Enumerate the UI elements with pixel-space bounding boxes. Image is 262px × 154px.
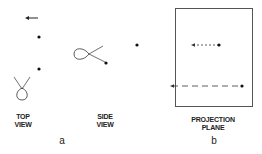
- side-view-label: SIDE VIEW: [90, 113, 120, 129]
- panel-b-letter: b: [208, 135, 220, 146]
- side-view-eye-icon: [74, 46, 105, 62]
- short-projected-motion-arrow: [191, 43, 221, 46]
- top-view-label: TOP VIEW: [6, 113, 40, 129]
- long-projected-motion-arrow: [170, 84, 244, 87]
- top-view-motion-arrow: [25, 16, 38, 20]
- top-view-label-line2: VIEW: [6, 121, 40, 129]
- top-view-eye-icon: [14, 77, 30, 100]
- side-view-label-line2: VIEW: [90, 121, 120, 129]
- side-view-label-line1: SIDE: [90, 113, 120, 121]
- top-view-label-line1: TOP: [6, 113, 40, 121]
- top-view-far-point: [37, 67, 40, 70]
- side-view-far-point: [135, 43, 138, 46]
- projection-plane-label: PROJECTION PLANE: [178, 116, 248, 132]
- top-view-near-point: [37, 35, 40, 38]
- projection-plane-label-line1: PROJECTION: [178, 116, 248, 124]
- panel-a-letter: a: [56, 135, 68, 146]
- projection-plane-box: [176, 9, 253, 107]
- side-view-near-point: [104, 61, 107, 64]
- projection-plane-label-line2: PLANE: [178, 124, 248, 132]
